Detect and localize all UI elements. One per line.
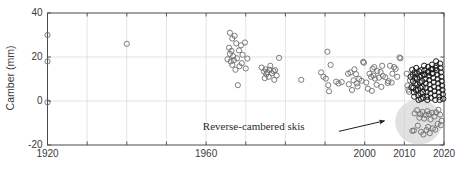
y-tick-label: 0 xyxy=(37,95,43,106)
camber-vs-year-chart: 19201960200020102020 -2002040 Reverse-ca… xyxy=(0,0,475,173)
x-tick-label: 2000 xyxy=(354,148,377,159)
x-tick-label: 2010 xyxy=(393,148,416,159)
y-tick-label: -20 xyxy=(28,139,43,150)
x-tick-label: 2020 xyxy=(433,148,456,159)
highlight-ellipse xyxy=(395,99,442,144)
annotation-label: Reverse-cambered skis xyxy=(203,120,305,132)
y-tick-label: 40 xyxy=(31,7,43,18)
y-tick-label: 20 xyxy=(31,51,43,62)
reverse-camber-highlight-ellipse xyxy=(395,99,442,144)
y-axis-title: Camber (mm) xyxy=(4,46,16,111)
scatter-plot-figure: 19201960200020102020 -2002040 Reverse-ca… xyxy=(0,0,475,173)
x-tick-label: 1960 xyxy=(195,148,218,159)
